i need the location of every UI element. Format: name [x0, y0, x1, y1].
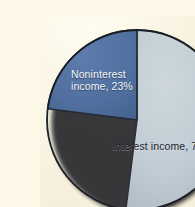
pie-slice-noninterest-income-shape: [48, 30, 137, 120]
pie-chart-graphic: [40, 16, 195, 207]
pie-chart-figure: Noninterest income, 23% Interest income,…: [40, 16, 195, 207]
